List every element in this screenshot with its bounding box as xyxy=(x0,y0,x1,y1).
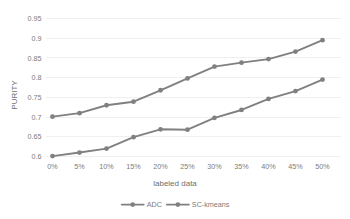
data-point xyxy=(239,108,244,113)
x-tick-label: 10% xyxy=(99,162,114,171)
data-point xyxy=(320,38,325,43)
data-point xyxy=(293,89,298,94)
data-point xyxy=(158,127,163,132)
chart-container: 0.60.650.70.750.80.850.90.95 0%5%10%15%2… xyxy=(0,0,350,219)
x-tick-label: 45% xyxy=(288,162,303,171)
data-point xyxy=(50,154,55,159)
y-axis-title: PURITY xyxy=(10,80,19,110)
x-tick-label: 30% xyxy=(207,162,222,171)
y-tick-label: 0.8 xyxy=(32,73,42,82)
x-tick-label: 25% xyxy=(180,162,195,171)
data-point xyxy=(104,146,109,151)
x-tick-label: 35% xyxy=(234,162,249,171)
purity-vs-labeled-data-chart: 0.60.650.70.750.80.850.90.95 0%5%10%15%2… xyxy=(0,0,350,219)
data-point xyxy=(266,97,271,102)
y-tick-label: 0.7 xyxy=(32,113,42,122)
y-tick-label: 0.65 xyxy=(28,132,42,141)
data-point xyxy=(131,135,136,140)
data-point xyxy=(320,77,325,82)
data-point xyxy=(131,99,136,104)
y-tick-label: 0.95 xyxy=(28,14,42,23)
data-point xyxy=(104,103,109,108)
data-point xyxy=(266,57,271,62)
data-point xyxy=(185,127,190,132)
y-tick-label: 0.6 xyxy=(32,152,42,161)
legend-swatch-marker xyxy=(175,202,180,207)
data-point xyxy=(77,111,82,116)
data-point xyxy=(77,150,82,155)
data-point xyxy=(239,60,244,65)
y-tick-label: 0.75 xyxy=(28,93,42,102)
x-tick-label: 40% xyxy=(261,162,276,171)
y-tick-label: 0.9 xyxy=(32,34,42,43)
legend-label: ADC xyxy=(147,200,162,209)
data-point xyxy=(50,114,55,119)
data-point xyxy=(212,64,217,69)
data-point xyxy=(185,76,190,81)
x-tick-label: 50% xyxy=(315,162,330,171)
x-tick-label: 20% xyxy=(153,162,168,171)
data-point xyxy=(158,88,163,93)
x-axis-title: labeled data xyxy=(153,179,197,188)
y-tick-label: 0.85 xyxy=(28,54,42,63)
x-tick-label: 5% xyxy=(74,162,85,171)
legend-label: SC-kmeans xyxy=(192,200,230,209)
legend-swatch-marker xyxy=(130,202,135,207)
x-tick-label: 15% xyxy=(126,162,141,171)
data-point xyxy=(293,49,298,54)
x-tick-label: 0% xyxy=(47,162,58,171)
data-point xyxy=(212,115,217,120)
